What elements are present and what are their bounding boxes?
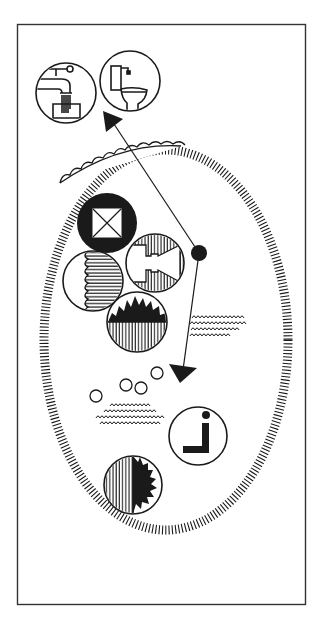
arrow-down-head — [169, 364, 197, 383]
arrow-down-line — [183, 253, 199, 370]
seated-person-icon[interactable] — [169, 407, 227, 465]
entrance-square-icon[interactable] — [77, 193, 137, 253]
site-diagram — [0, 0, 320, 617]
water-tap-icon[interactable] — [36, 63, 96, 123]
mound-icon — [60, 142, 185, 184]
arrow-up-head — [103, 111, 123, 132]
bubbles-icon — [90, 367, 163, 402]
toilet-icon[interactable] — [100, 51, 160, 112]
scrub-texture-left — [96, 404, 164, 424]
sunrise-icon[interactable] — [106, 292, 168, 354]
half-sunburst-icon[interactable] — [104, 455, 162, 515]
scrub-texture-right — [190, 316, 246, 336]
hatched-boundary — [44, 150, 288, 530]
junction-dot — [191, 245, 207, 261]
